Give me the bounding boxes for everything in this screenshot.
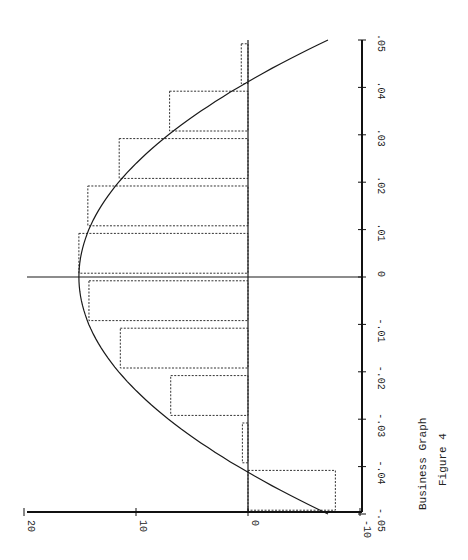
category-tick-label: 0 <box>375 271 386 277</box>
category-tick-label: .02 <box>375 176 386 194</box>
category-tick-label: .03 <box>375 129 386 147</box>
histogram-bar <box>171 376 248 416</box>
category-tick-label: .05 <box>375 34 386 52</box>
category-axis: .05.04.03.02.010-.01-.02-.03-.04-.05 <box>358 34 386 532</box>
histogram-bar <box>120 328 248 368</box>
category-tick-label: -.01 <box>375 318 386 342</box>
chart-title: Business Graph <box>417 418 429 510</box>
category-tick-label: -.04 <box>375 461 386 485</box>
histogram-bar <box>242 423 248 463</box>
histogram-bar <box>241 44 248 84</box>
business-graph-chart: 20100-10 .05.04.03.02.010-.01-.02-.03-.0… <box>0 0 468 560</box>
histogram-bar <box>248 470 335 510</box>
histogram-bar <box>89 281 248 321</box>
value-tick-label: -10 <box>361 520 372 538</box>
reference-lines <box>27 40 362 512</box>
histogram-bar <box>119 139 248 179</box>
histogram-bar <box>79 233 248 273</box>
category-tick-label: -.03 <box>375 413 386 437</box>
value-tick-label: 10 <box>137 520 148 532</box>
category-tick-label: .01 <box>375 224 386 242</box>
value-axis: 20100-10 <box>24 508 372 538</box>
figure-label: Figure 4 <box>437 433 449 486</box>
category-tick-label: .04 <box>375 81 386 99</box>
value-tick-label: 20 <box>25 520 36 532</box>
value-tick-label: 0 <box>249 520 260 526</box>
histogram-bar <box>88 186 248 226</box>
category-tick-label: -.02 <box>375 366 386 390</box>
category-tick-label: -.05 <box>375 508 386 532</box>
